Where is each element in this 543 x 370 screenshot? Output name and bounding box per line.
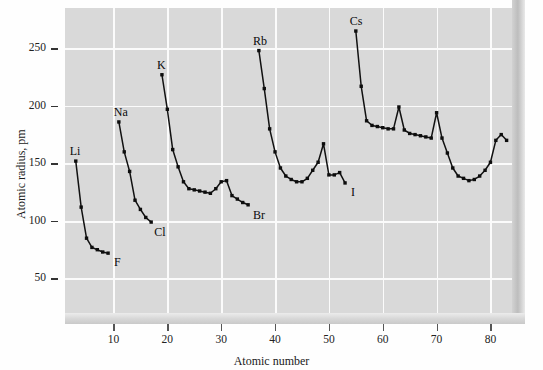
data-point-marker: [203, 190, 206, 193]
data-point-marker: [241, 201, 244, 204]
data-point-marker: [225, 179, 228, 182]
series-line: [119, 122, 151, 222]
y-axis-tick-mark: [51, 278, 58, 279]
y-axis-tick-mark: [51, 221, 58, 222]
plot-3d-right-face: [512, 0, 525, 313]
element-label-cl: Cl: [154, 226, 165, 238]
data-point-marker: [322, 142, 325, 145]
data-point-marker: [133, 199, 136, 202]
data-point-marker: [343, 181, 346, 184]
data-point-marker: [128, 170, 131, 173]
data-point-marker: [376, 125, 379, 128]
data-point-marker: [139, 208, 142, 211]
data-point-marker: [198, 189, 201, 192]
data-point-marker: [306, 177, 309, 180]
data-point-marker: [435, 111, 438, 114]
data-point-marker: [263, 87, 266, 90]
data-point-marker: [246, 203, 249, 206]
y-axis-tick-label: 50: [18, 271, 46, 283]
data-point-marker: [279, 166, 282, 169]
data-point-marker: [467, 179, 470, 182]
x-axis-tick-label: 10: [98, 333, 128, 345]
data-point-marker: [327, 173, 330, 176]
x-axis-tick-mark: [329, 324, 330, 331]
data-point-marker: [144, 216, 147, 219]
data-point-marker: [268, 127, 271, 130]
data-point-marker: [101, 250, 104, 253]
x-axis-tick-mark: [167, 324, 168, 331]
series-line: [259, 51, 345, 183]
data-point-marker: [273, 150, 276, 153]
data-point-marker: [171, 148, 174, 151]
data-point-marker: [160, 73, 163, 76]
data-point-marker: [193, 188, 196, 191]
data-point-marker: [176, 165, 179, 168]
y-axis-tick-mark: [51, 48, 58, 49]
data-point-marker: [219, 180, 222, 183]
data-point-marker: [483, 169, 486, 172]
data-point-marker: [451, 166, 454, 169]
data-point-marker: [106, 251, 109, 254]
data-point-marker: [316, 161, 319, 164]
data-point-marker: [257, 49, 260, 52]
data-point-marker: [403, 128, 406, 131]
data-point-marker: [473, 178, 476, 181]
data-point-marker: [187, 187, 190, 190]
x-axis-tick-mark: [383, 324, 384, 331]
data-point-marker: [74, 159, 77, 162]
data-point-marker: [117, 120, 120, 123]
x-axis-tick-label: 60: [368, 333, 398, 345]
x-axis-tick-mark: [113, 324, 114, 331]
data-point-marker: [392, 127, 395, 130]
y-axis-tick-label: 250: [18, 41, 46, 53]
data-point-marker: [209, 192, 212, 195]
data-point-marker: [430, 136, 433, 139]
data-point-marker: [354, 29, 357, 32]
element-label-na: Na: [114, 106, 128, 118]
data-point-marker: [230, 194, 233, 197]
data-point-marker: [386, 127, 389, 130]
data-point-marker: [289, 178, 292, 181]
x-axis-tick-label: 80: [475, 333, 505, 345]
x-axis-tick-label: 70: [422, 333, 452, 345]
x-axis-tick-label: 20: [152, 333, 182, 345]
data-point-marker: [424, 135, 427, 138]
series-line: [356, 31, 507, 181]
data-point-marker: [360, 85, 363, 88]
x-axis-title: Atomic number: [0, 354, 543, 369]
data-point-marker: [494, 139, 497, 142]
y-axis-tick-label: 200: [18, 99, 46, 111]
data-point-marker: [123, 150, 126, 153]
y-axis-title: Atomic radius, pm: [14, 129, 29, 219]
x-axis-tick-mark: [221, 324, 222, 331]
data-point-marker: [413, 133, 416, 136]
data-point-marker: [500, 133, 503, 136]
x-axis-tick-label: 50: [314, 333, 344, 345]
data-point-marker: [397, 105, 400, 108]
data-point-marker: [338, 171, 341, 174]
data-point-marker: [311, 169, 314, 172]
data-point-marker: [478, 174, 481, 177]
data-point-marker: [333, 173, 336, 176]
data-point-marker: [419, 134, 422, 137]
data-point-marker: [505, 139, 508, 142]
data-point-marker: [365, 119, 368, 122]
data-point-marker: [90, 246, 93, 249]
data-point-marker: [381, 126, 384, 129]
data-point-marker: [440, 136, 443, 139]
element-label-rb: Rb: [253, 35, 267, 47]
element-label-i: I: [351, 186, 355, 198]
plot-area: [65, 8, 512, 313]
data-point-marker: [79, 205, 82, 208]
x-axis-tick-mark: [275, 324, 276, 331]
data-point-marker: [446, 151, 449, 154]
data-point-marker: [149, 220, 152, 223]
data-series-layer: [65, 8, 512, 313]
element-label-f: F: [114, 256, 121, 268]
data-point-marker: [284, 174, 287, 177]
plot-3d-bottom-face: [65, 313, 525, 324]
element-label-li: Li: [70, 145, 81, 157]
data-point-marker: [462, 177, 465, 180]
data-point-marker: [166, 108, 169, 111]
data-point-marker: [300, 180, 303, 183]
